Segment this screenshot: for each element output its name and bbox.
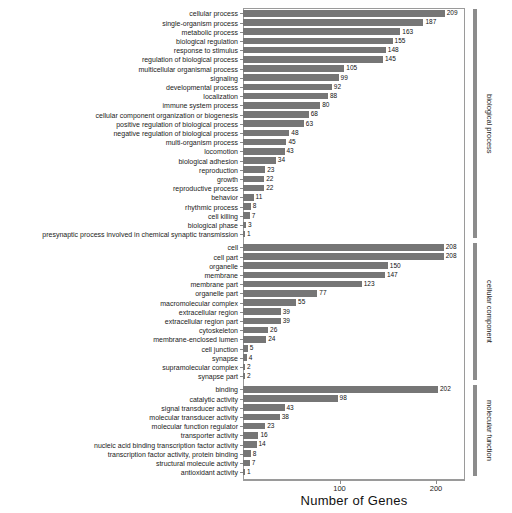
bar: [243, 139, 286, 146]
group-label: cellular component: [481, 243, 497, 380]
category-tick: [240, 376, 243, 377]
bar: [243, 47, 386, 54]
bar-value-label: 88: [328, 93, 337, 100]
category-tick: [240, 41, 243, 42]
bar-value-label: 7: [250, 212, 256, 219]
bar-value-label: 43: [285, 148, 294, 155]
bar: [243, 460, 250, 467]
bar-value-label: 202: [438, 386, 451, 393]
category-label: metabolic process: [182, 28, 238, 35]
category-tick: [240, 142, 243, 143]
bar-row: 68: [243, 111, 465, 118]
category-tick: [240, 179, 243, 180]
bar-row: 39: [243, 308, 465, 315]
go-enrichment-bar-chart: 2091871631551481451059992888068634845433…: [0, 0, 512, 513]
bar: [243, 395, 338, 402]
bar-row: 202: [243, 386, 465, 393]
category-tick: [240, 358, 243, 359]
category-tick: [240, 426, 243, 427]
bar-value-label: 43: [285, 404, 294, 411]
bar-value-label: 1: [245, 231, 251, 238]
x-tick-label: 100: [333, 485, 346, 493]
category-tick: [240, 115, 243, 116]
group-label: biological process: [481, 9, 497, 238]
bar: [243, 386, 438, 393]
bar-value-label: 2: [245, 364, 251, 371]
bar: [243, 318, 281, 325]
bar: [243, 19, 423, 26]
bar-value-label: 92: [332, 84, 341, 91]
category-label: presynaptic process involved in chemical…: [42, 231, 238, 238]
category-tick: [240, 50, 243, 51]
bar: [243, 120, 304, 127]
category-label: developmental process: [166, 83, 238, 90]
category-label: rhythmic process: [185, 203, 238, 210]
category-label: membrane part: [191, 281, 238, 288]
bar-row: 34: [243, 157, 465, 164]
category-tick: [240, 445, 243, 446]
bar-value-label: 5: [248, 345, 254, 352]
category-tick: [240, 23, 243, 24]
bar-row: 145: [243, 56, 465, 63]
group-bracket: cellular component: [470, 243, 512, 380]
bar-value-label: 55: [296, 299, 305, 306]
bar-row: 22: [243, 176, 465, 183]
bar: [243, 404, 285, 411]
category-label: structural molecule activity: [156, 459, 238, 466]
category-tick: [240, 339, 243, 340]
bar-row: 5: [243, 345, 465, 352]
bar: [243, 130, 289, 137]
bar-value-label: 48: [289, 130, 298, 137]
bar-row: 3: [243, 222, 465, 229]
bar: [243, 157, 276, 164]
bar-row: 123: [243, 281, 465, 288]
bar-row: 55: [243, 299, 465, 306]
bar-value-label: 105: [344, 65, 357, 72]
bar-row: 105: [243, 65, 465, 72]
bar-value-label: 2: [245, 373, 251, 380]
category-label: signal transducer activity: [161, 404, 238, 411]
category-tick: [240, 349, 243, 350]
bar: [243, 299, 296, 306]
bar-row: 99: [243, 74, 465, 81]
category-tick: [240, 207, 243, 208]
bar: [243, 74, 339, 81]
bar-row: 1: [243, 469, 465, 476]
bar-row: 39: [243, 318, 465, 325]
category-label: cell junction: [201, 345, 238, 352]
category-tick: [240, 330, 243, 331]
bar-row: 150: [243, 262, 465, 269]
bar-row: 1: [243, 231, 465, 238]
bar-row: 23: [243, 166, 465, 173]
bar-value-label: 24: [266, 336, 275, 343]
category-label: synapse part: [198, 373, 238, 380]
bar-value-label: 68: [309, 111, 318, 118]
bar-value-label: 8: [251, 203, 257, 210]
category-tick: [240, 59, 243, 60]
bar-value-label: 163: [400, 28, 413, 35]
category-label: cell: [227, 244, 238, 251]
category-tick: [240, 225, 243, 226]
bar-rows-container: 2091871631551481451059992888068634845433…: [243, 8, 465, 480]
bar-value-label: 7: [250, 460, 256, 467]
category-tick: [240, 247, 243, 248]
x-tick-label: 200: [430, 485, 443, 493]
bar-row: 208: [243, 244, 465, 251]
category-label: transporter activity: [181, 432, 238, 439]
category-label: cellular process: [189, 10, 238, 17]
bar-row: 48: [243, 130, 465, 137]
category-label: behavior: [211, 194, 238, 201]
category-label: reproduction: [199, 166, 238, 173]
bar-value-label: 80: [320, 102, 329, 109]
bar-row: 187: [243, 19, 465, 26]
category-label: multicellular organismal process: [138, 65, 238, 72]
bar: [243, 93, 328, 100]
bar-value-label: 22: [264, 185, 273, 192]
bar: [243, 194, 254, 201]
category-label: cellular component organization or bioge…: [96, 111, 238, 118]
category-label: synapse: [212, 354, 238, 361]
category-label: transcription factor activity, protein b…: [108, 450, 238, 457]
category-tick: [240, 105, 243, 106]
category-tick: [240, 303, 243, 304]
category-tick: [240, 284, 243, 285]
